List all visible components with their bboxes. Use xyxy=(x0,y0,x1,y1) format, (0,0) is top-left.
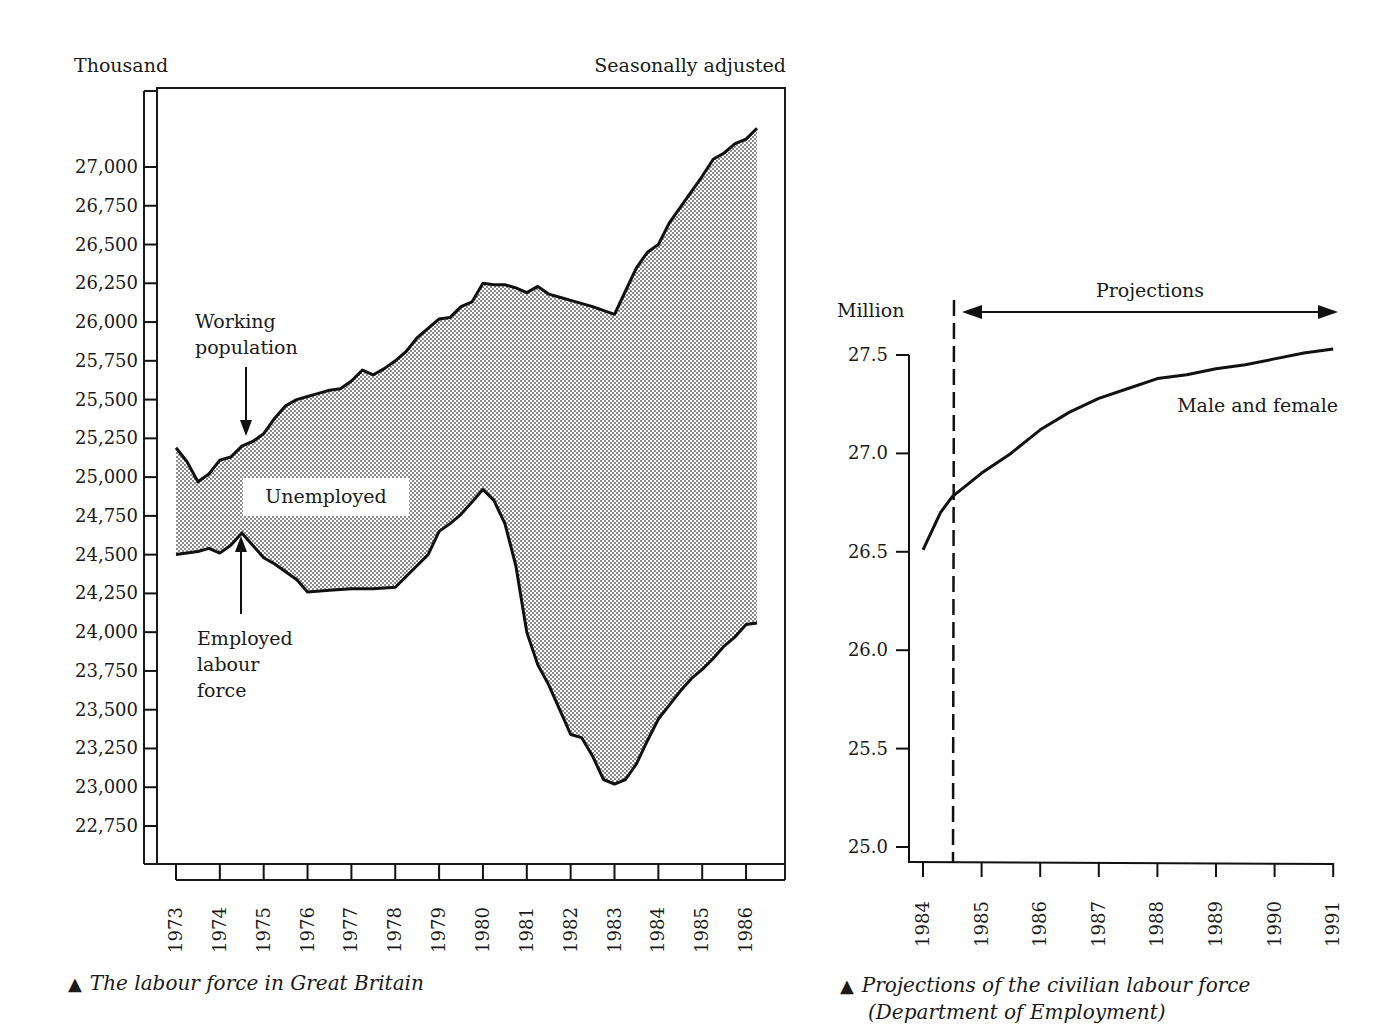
x-tick-label: 1982 xyxy=(560,907,581,953)
y-tick-label: 25,000 xyxy=(75,466,138,487)
x-tick-label: 1990 xyxy=(1264,901,1285,947)
y-tick-label: 23,500 xyxy=(75,699,138,720)
x-tick-label: 1991 xyxy=(1322,901,1343,947)
right-y-ticks: 27.527.026.526.025.525.0 xyxy=(848,344,909,857)
x-tick-label: 1984 xyxy=(647,907,668,953)
unemployed-label: Unemployed xyxy=(265,485,386,507)
arrow-right-icon xyxy=(1318,305,1338,319)
right-x-ticks: 19841985198619871988198919901991 xyxy=(912,863,1343,947)
unemployed-area xyxy=(176,128,757,784)
x-tick-label: 1978 xyxy=(384,907,405,953)
right-unit-label: Million xyxy=(837,299,904,321)
left-x-ticks: 1973197419751976197719781979198019811982… xyxy=(165,864,756,953)
labour-force-charts: Thousand Seasonally adjusted 27,00026,75… xyxy=(0,0,1400,1028)
right-caption-line2: (Department of Employment) xyxy=(840,999,1250,1025)
y-tick-label: 22,750 xyxy=(75,815,138,836)
x-tick-label: 1986 xyxy=(1029,901,1050,947)
y-tick-label: 25,750 xyxy=(75,350,138,371)
y-tick-label: 24,500 xyxy=(75,544,138,565)
x-tick-label: 1975 xyxy=(253,907,274,953)
left-caption-text: The labour force in Great Britain xyxy=(90,971,424,995)
right-caption: ▲Projections of the civilian labour forc… xyxy=(840,972,1250,1025)
y-tick-label: 27.0 xyxy=(848,442,888,463)
x-tick-label: 1974 xyxy=(209,907,230,953)
male-and-female-line xyxy=(923,349,1333,550)
x-tick-label: 1980 xyxy=(472,907,493,953)
y-tick-label: 25.5 xyxy=(848,738,888,759)
y-tick-label: 27.5 xyxy=(848,344,888,365)
x-tick-label: 1985 xyxy=(691,907,712,953)
projections-label: Projections xyxy=(1096,279,1204,301)
y-tick-label: 24,250 xyxy=(75,582,138,603)
left-chart: Thousand Seasonally adjusted 27,00026,75… xyxy=(74,54,786,953)
x-tick-label: 1979 xyxy=(428,907,449,953)
x-tick-label: 1988 xyxy=(1146,901,1167,947)
x-tick-label: 1986 xyxy=(735,907,756,953)
arrow-down-icon xyxy=(240,420,252,436)
y-tick-label: 23,000 xyxy=(75,776,138,797)
y-tick-label: 24,000 xyxy=(75,621,138,642)
arrow-left-icon xyxy=(962,305,982,319)
x-tick-label: 1976 xyxy=(297,907,318,953)
y-tick-label: 25.0 xyxy=(848,836,888,857)
y-tick-label: 24,750 xyxy=(75,505,138,526)
x-tick-label: 1985 xyxy=(971,901,992,947)
right-caption-line1: Projections of the civilian labour force xyxy=(862,973,1250,997)
left-caption: ▲The labour force in Great Britain xyxy=(68,970,424,997)
caption-triangle-icon: ▲ xyxy=(840,975,854,996)
employed-label-2: labour xyxy=(197,653,260,675)
y-tick-label: 26.5 xyxy=(848,541,888,562)
projection-start-divider xyxy=(953,300,954,862)
y-tick-label: 26,500 xyxy=(75,234,138,255)
left-unit-label: Thousand xyxy=(74,54,168,76)
y-tick-label: 23,750 xyxy=(75,660,138,681)
x-tick-label: 1987 xyxy=(1088,901,1109,947)
seasonally-adjusted-note: Seasonally adjusted xyxy=(594,54,786,76)
y-tick-label: 26.0 xyxy=(848,639,888,660)
right-chart: Million Projections 27.527.026.526.025.5… xyxy=(837,279,1343,947)
y-tick-label: 23,250 xyxy=(75,737,138,758)
x-tick-label: 1989 xyxy=(1205,901,1226,947)
x-tick-label: 1983 xyxy=(604,907,625,953)
x-tick-label: 1981 xyxy=(516,907,537,953)
y-tick-label: 26,000 xyxy=(75,311,138,332)
x-tick-label: 1977 xyxy=(340,907,361,953)
caption-triangle-icon: ▲ xyxy=(68,973,82,994)
male-and-female-label: Male and female xyxy=(1177,394,1338,416)
employed-label-3: force xyxy=(197,679,246,701)
x-tick-label: 1984 xyxy=(912,901,933,947)
right-x-axis xyxy=(908,862,1334,864)
working-population-label-1: Working xyxy=(195,310,276,332)
y-tick-label: 25,250 xyxy=(75,427,138,448)
employed-label-1: Employed xyxy=(197,627,293,649)
working-population-label-2: population xyxy=(195,336,298,358)
y-tick-label: 26,250 xyxy=(75,272,138,293)
y-tick-label: 25,500 xyxy=(75,389,138,410)
y-tick-label: 27,000 xyxy=(75,156,138,177)
y-tick-label: 26,750 xyxy=(75,195,138,216)
x-tick-label: 1973 xyxy=(165,907,186,953)
